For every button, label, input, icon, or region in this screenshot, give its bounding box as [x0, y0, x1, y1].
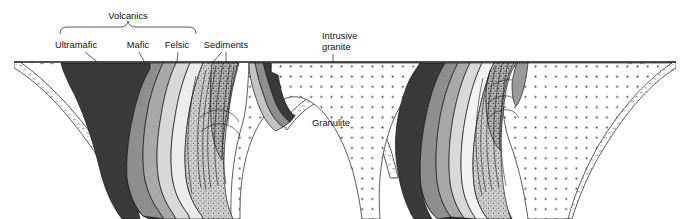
- label-granulite: Granulite: [312, 117, 350, 128]
- label-intrusive-granite-line2: granite: [322, 41, 351, 52]
- subsurface-group: [14, 60, 676, 219]
- label-intrusive-granite-line1: Intrusive: [322, 30, 357, 41]
- label-sediments: Sediments: [204, 39, 249, 50]
- label-volcanics: Volcanics: [108, 10, 148, 21]
- volcanics-bracket: [60, 21, 196, 34]
- label-felsic: Felsic: [165, 39, 190, 50]
- geologic-cross-section-figure: Volcanics Ultramafic Mafic Felsic Sedime…: [0, 0, 680, 219]
- label-ultramafic: Ultramafic: [55, 39, 98, 50]
- label-mafic: Mafic: [127, 39, 150, 50]
- cross-section-canvas: Volcanics Ultramafic Mafic Felsic Sedime…: [0, 0, 680, 219]
